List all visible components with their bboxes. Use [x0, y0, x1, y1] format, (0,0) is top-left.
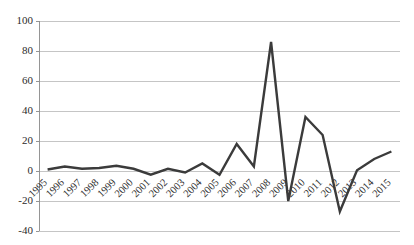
x-tick-label: 2012 — [319, 177, 342, 200]
y-tick-label: 20 — [22, 134, 34, 146]
x-tick-label: 2003 — [164, 177, 187, 200]
y-tick-label: 0 — [28, 164, 34, 176]
y-tick-label: 100 — [17, 14, 34, 26]
x-tick-label: 2002 — [147, 177, 170, 200]
x-tick-label: 2008 — [250, 177, 273, 200]
x-tick-label: 1995 — [26, 177, 49, 200]
y-tick-labels: -40-20020406080100 — [17, 14, 34, 236]
y-tick-label: 60 — [22, 74, 34, 86]
x-tick-label: 1996 — [44, 177, 67, 200]
line-chart: -40-200204060801001995199619971998199920… — [0, 0, 414, 245]
x-tick-label: 2001 — [130, 177, 153, 200]
y-tick-label: -40 — [18, 224, 33, 236]
x-tick-label: 1998 — [78, 177, 101, 200]
x-tick-label: 1997 — [61, 177, 84, 200]
y-tick-label: 40 — [22, 104, 34, 116]
x-tick-label: 2006 — [215, 177, 238, 200]
x-tick-label: 2005 — [198, 177, 221, 200]
x-tick-label: 2011 — [302, 177, 324, 199]
y-axis — [36, 21, 40, 231]
chart-canvas: -40-200204060801001995199619971998199920… — [0, 0, 414, 245]
x-tick-label: 2000 — [112, 177, 135, 200]
x-tick-label: 2007 — [233, 177, 256, 200]
x-tick-label: 1999 — [95, 177, 118, 200]
x-tick-labels: 1995199619971998199920002001200220032004… — [26, 176, 392, 199]
y-tick-label: 80 — [22, 44, 34, 56]
x-tick-label: 2015 — [370, 177, 393, 200]
